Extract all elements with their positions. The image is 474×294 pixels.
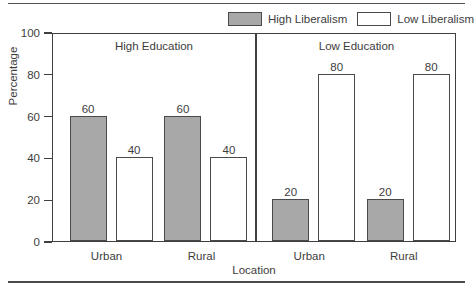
y-tick-mark-80 xyxy=(44,74,52,75)
x-tick-label-rural-panel1: Rural xyxy=(364,250,444,262)
y-tick-label-0: 0 xyxy=(4,236,40,248)
y-tick-mark-40 xyxy=(44,158,52,159)
top-divider-rule xyxy=(8,3,465,4)
y-tick-mark-60 xyxy=(44,116,52,117)
y-tick-mark-0 xyxy=(44,241,52,242)
bar-value-label: 20 xyxy=(272,186,309,198)
bar-value-label: 80 xyxy=(318,61,355,73)
y-tick-mark-20 xyxy=(44,200,52,201)
bar-low-liberalism-rural-panel0[interactable] xyxy=(210,157,247,241)
legend-label-low-liberalism: Low Liberalism xyxy=(397,13,474,25)
y-tick-label-80: 80 xyxy=(4,69,40,81)
bar-low-liberalism-rural-panel1[interactable] xyxy=(413,74,450,241)
legend-swatch-high-liberalism xyxy=(228,12,262,26)
x-tick-label-rural-panel0: Rural xyxy=(161,250,241,262)
y-tick-mark-100 xyxy=(44,32,52,33)
bottom-divider-rule xyxy=(8,281,465,283)
bar-low-liberalism-urban-panel1[interactable] xyxy=(318,74,355,241)
bar-value-label: 80 xyxy=(413,61,450,73)
bar-value-label: 60 xyxy=(164,103,201,115)
chart-legend: High Liberalism Low Liberalism xyxy=(228,12,474,26)
bar-high-liberalism-rural-panel0[interactable] xyxy=(164,116,201,241)
y-tick-label-20: 20 xyxy=(4,194,40,206)
bar-value-label: 60 xyxy=(70,103,107,115)
bar-high-liberalism-rural-panel1[interactable] xyxy=(367,199,404,241)
bar-value-label: 40 xyxy=(210,144,247,156)
bar-high-liberalism-urban-panel0[interactable] xyxy=(70,116,107,241)
legend-label-high-liberalism: High Liberalism xyxy=(268,13,347,25)
y-tick-label-100: 100 xyxy=(4,27,40,39)
bar-low-liberalism-urban-panel0[interactable] xyxy=(116,157,153,241)
legend-entry-low-liberalism: Low Liberalism xyxy=(357,12,474,26)
legend-entry-high-liberalism: High Liberalism xyxy=(228,12,347,26)
x-tick-label-urban-panel1: Urban xyxy=(269,250,349,262)
bar-value-label: 40 xyxy=(116,144,153,156)
plot-area: High Education Low Education 60406040208… xyxy=(52,33,456,242)
bar-value-label: 20 xyxy=(367,186,404,198)
legend-swatch-low-liberalism xyxy=(357,12,391,26)
bar-group: 6040604020802080 xyxy=(53,34,455,241)
x-tick-label-urban-panel0: Urban xyxy=(67,250,147,262)
bar-high-liberalism-urban-panel1[interactable] xyxy=(272,199,309,241)
y-tick-label-60: 60 xyxy=(4,111,40,123)
x-axis-label: Location xyxy=(52,264,456,276)
y-tick-label-40: 40 xyxy=(4,152,40,164)
